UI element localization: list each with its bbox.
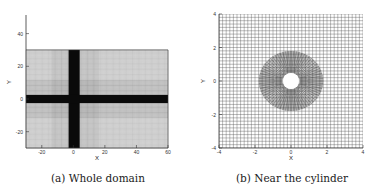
tick-label: -4 xyxy=(217,149,222,155)
tick-label: -2 xyxy=(253,149,258,155)
panel-whole-domain: -20020406040200-20 X Y (a) Whole domain xyxy=(0,0,186,194)
tick-label: 0 xyxy=(72,149,75,155)
x-axis-label: X xyxy=(95,155,99,161)
tick-label: 20 xyxy=(102,149,108,155)
y-axis-label: Y xyxy=(6,80,12,84)
whole-domain-mesh-plot: -20020406040200-20 X Y xyxy=(0,0,186,170)
tick-label: 60 xyxy=(165,149,171,155)
cylinder xyxy=(283,73,299,89)
tick-label: -2 xyxy=(212,112,217,118)
tick-label: 20 xyxy=(17,63,23,69)
y-axis-label: Y xyxy=(200,79,206,83)
caption-b: (b) Near the cylinder xyxy=(186,172,372,184)
tick-label: -20 xyxy=(38,149,45,155)
tick-label: 0 xyxy=(20,96,23,102)
tick-label: -4 xyxy=(212,145,217,151)
tick-label: 2 xyxy=(326,149,329,155)
tick-label: 2 xyxy=(213,45,216,51)
tick-label: 4 xyxy=(213,11,216,17)
near-cylinder-mesh-plot: -4-2024420-2-4 X Y xyxy=(186,0,372,170)
tick-label: 0 xyxy=(213,78,216,84)
tick-label: 40 xyxy=(134,149,140,155)
x-axis-label: X xyxy=(289,155,293,161)
tick-label: 40 xyxy=(17,31,23,37)
tick-label: -20 xyxy=(16,129,23,135)
caption-a: (a) Whole domain xyxy=(0,172,196,184)
panel-near-cylinder: -4-2024420-2-4 X Y (b) Near the cylinder xyxy=(186,0,372,194)
tick-label: 4 xyxy=(362,149,365,155)
